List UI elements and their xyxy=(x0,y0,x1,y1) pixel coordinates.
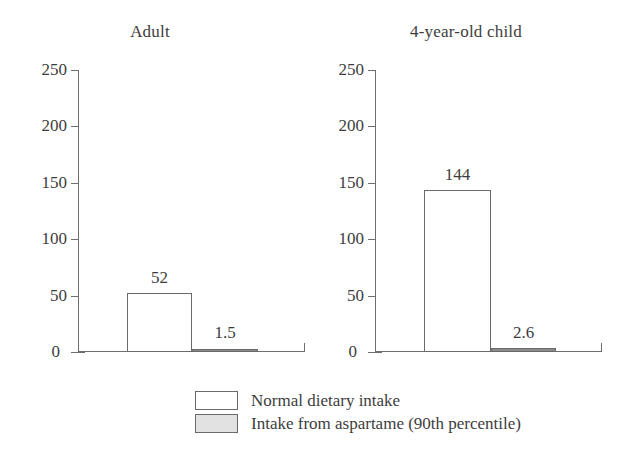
legend-item-aspartame-intake: Intake from aspartame (90th percentile) xyxy=(195,412,615,435)
panel-title-adult: Adult xyxy=(0,22,300,42)
y-tick-100-adult: 100 xyxy=(71,239,78,240)
legend-label-normal-dietary-intake: Normal dietary intake xyxy=(251,391,400,411)
y-tick-0-child: 0 xyxy=(368,352,382,353)
plot-area-child: 250 200 150 100 50 0 144 2.6 xyxy=(375,70,602,352)
y-tick-50-adult: 50 xyxy=(71,296,78,297)
y-tick-label-100-adult: 100 xyxy=(42,229,72,249)
y-tick-200-child: 200 xyxy=(368,126,375,127)
bar-adult-normal-intake xyxy=(127,293,192,352)
y-axis-adult xyxy=(78,70,79,352)
y-tick-200-adult: 200 xyxy=(71,126,78,127)
legend-swatch-open-icon xyxy=(195,391,238,410)
bar-label-adult-normal-intake: 52 xyxy=(127,268,192,288)
chart-panel-adult: Adult 250 200 150 100 50 0 52 1.5 xyxy=(0,0,318,380)
legend-label-aspartame-intake: Intake from aspartame (90th percentile) xyxy=(251,414,521,434)
y-tick-label-200-adult: 200 xyxy=(42,116,72,136)
y-tick-label-50-child: 50 xyxy=(347,286,368,306)
legend-item-normal-dietary-intake: Normal dietary intake xyxy=(195,389,615,412)
chart-legend: Normal dietary intake Intake from aspart… xyxy=(195,389,615,435)
y-tick-label-0-adult: 0 xyxy=(52,342,72,362)
bar-label-adult-aspartame-intake: 1.5 xyxy=(192,323,258,343)
y-tick-50-child: 50 xyxy=(368,296,375,297)
y-tick-250-child: 250 xyxy=(368,70,375,71)
bar-adult-aspartame-intake xyxy=(192,349,258,352)
y-tick-150-child: 150 xyxy=(368,183,375,184)
y-tick-label-100-child: 100 xyxy=(339,229,369,249)
bar-label-child-normal-intake: 144 xyxy=(424,165,491,185)
bar-label-child-aspartame-intake: 2.6 xyxy=(491,323,556,343)
legend-swatch-filled-icon xyxy=(195,414,238,433)
bar-child-aspartame-intake xyxy=(491,348,556,352)
y-tick-label-200-child: 200 xyxy=(339,116,369,136)
y-axis-child xyxy=(375,70,376,352)
y-tick-0-adult: 0 xyxy=(71,352,85,353)
chart-panel-child: 4-year-old child 250 200 150 100 50 0 14… xyxy=(297,0,635,380)
y-tick-250-adult: 250 xyxy=(71,70,78,71)
plot-area-adult: 250 200 150 100 50 0 52 1.5 xyxy=(78,70,305,352)
y-tick-label-150-child: 150 xyxy=(339,173,369,193)
y-tick-label-150-adult: 150 xyxy=(42,173,72,193)
y-tick-100-child: 100 xyxy=(368,239,375,240)
bar-child-normal-intake xyxy=(424,190,491,352)
y-tick-label-250-child: 250 xyxy=(339,60,369,80)
panel-title-child: 4-year-old child xyxy=(297,22,635,42)
y-tick-label-50-adult: 50 xyxy=(50,286,71,306)
y-tick-label-250-adult: 250 xyxy=(42,60,72,80)
y-tick-150-adult: 150 xyxy=(71,183,78,184)
y-tick-label-0-child: 0 xyxy=(349,342,369,362)
